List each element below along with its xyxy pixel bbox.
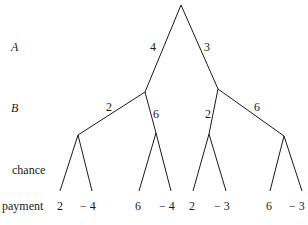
edge-label-right-left: 2 bbox=[205, 108, 211, 120]
edge-label-root-right: 3 bbox=[204, 41, 210, 53]
chance-edge bbox=[156, 133, 171, 191]
payment-value: 6 bbox=[266, 200, 272, 212]
edge-right-right bbox=[218, 89, 284, 136]
payment-value: − 3 bbox=[289, 200, 305, 212]
chance-edge bbox=[284, 136, 302, 191]
row-label-chance: chance bbox=[12, 164, 45, 176]
payment-value: − 4 bbox=[159, 200, 175, 212]
payment-value: 6 bbox=[135, 200, 141, 212]
payment-value: 2 bbox=[57, 200, 63, 212]
edge-label-left-left: 2 bbox=[106, 101, 112, 113]
chance-edge bbox=[139, 133, 156, 191]
chance-edge bbox=[270, 136, 284, 191]
row-label-a: A bbox=[11, 41, 18, 53]
edge-label-right-right: 6 bbox=[254, 101, 260, 113]
chance-edge bbox=[209, 134, 226, 191]
row-label-b: B bbox=[11, 102, 18, 114]
payment-value: − 3 bbox=[214, 200, 230, 212]
chance-edge bbox=[60, 135, 78, 191]
row-label-payment: payment bbox=[2, 200, 43, 212]
payment-value: − 4 bbox=[80, 200, 96, 212]
edge-label-root-left: 4 bbox=[150, 41, 156, 53]
edge-root-right bbox=[181, 5, 218, 89]
edge-label-left-right: 6 bbox=[153, 108, 159, 120]
chance-edge bbox=[193, 134, 209, 191]
payment-value: 2 bbox=[189, 200, 195, 212]
chance-edge bbox=[78, 135, 92, 191]
